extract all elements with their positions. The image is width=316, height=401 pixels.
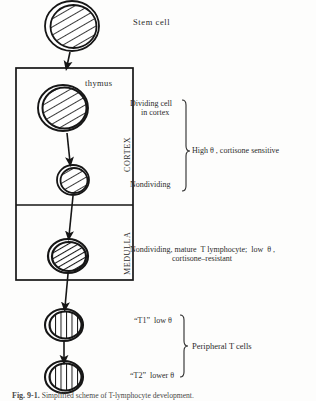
high-theta-label: High θ , cortisone sensitive — [192, 146, 279, 155]
arrow-medulla-to-t1 — [65, 274, 68, 307]
stem-cell — [45, 1, 99, 51]
t-lymphocyte-development-figure: Stem cell thymus CORTEX MEDULLA Dividing… — [0, 0, 316, 401]
cortex-label: CORTEX — [123, 137, 132, 172]
medulla-cell — [48, 239, 88, 273]
arrow-stem-to-thymus — [67, 52, 70, 66]
cortex-brace — [182, 100, 190, 191]
t1-cell — [45, 309, 83, 341]
figure-caption-text: Simplified scheme of T-lymphocyte develo… — [42, 391, 194, 400]
t2-cell — [45, 361, 83, 393]
nondividing-label: Nondividing — [130, 180, 170, 189]
peripheral-t-cells-label: Peripheral T cells — [192, 341, 252, 351]
cortex-dividing-cell — [38, 85, 88, 131]
medulla-description-line2: cortisone–resistant — [172, 254, 232, 263]
arrow-dividing-to-nondividing — [67, 133, 70, 162]
diagram-vector-layer — [0, 0, 316, 401]
dividing-cell-label-line2: in cortex — [141, 108, 169, 117]
figure-caption-label: Fig. 9-1. — [12, 391, 40, 400]
cortex-nondividing-cell — [57, 165, 89, 195]
stem-cell-label: Stem cell — [133, 17, 170, 27]
peripheral-brace — [180, 315, 188, 377]
t1-label: “T1” low θ — [134, 316, 172, 325]
thymus-label: thymus — [85, 78, 112, 88]
figure-caption: Fig. 9-1. Simplified scheme of T-lymphoc… — [12, 391, 194, 400]
t2-label: “T2” lower θ — [130, 371, 174, 380]
arrow-cortex-to-medulla — [69, 196, 73, 236]
